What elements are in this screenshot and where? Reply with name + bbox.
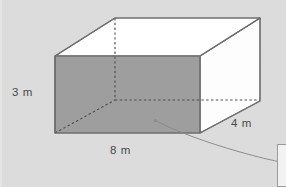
diagram-canvas: 3 m 8 m 4 m <box>0 0 286 187</box>
callout-box[interactable] <box>277 144 286 187</box>
left-edge-highlight <box>0 0 2 187</box>
width-dimension-label: 8 m <box>110 145 131 157</box>
depth-dimension-label: 4 m <box>231 118 252 130</box>
rectangular-prism-figure <box>0 0 286 187</box>
callout-anchor-dot <box>154 119 157 122</box>
height-dimension-label: 3 m <box>12 87 33 99</box>
